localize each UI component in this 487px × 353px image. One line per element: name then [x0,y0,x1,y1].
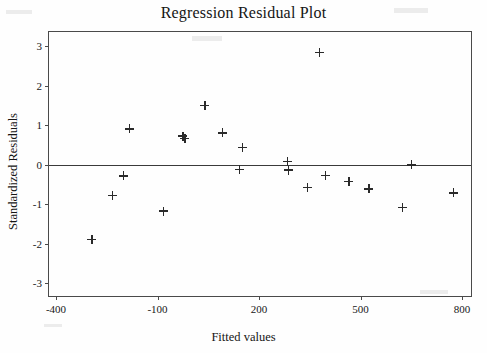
data-point-marker [119,171,128,180]
y-axis-tick-mark [45,244,49,245]
data-point-marker [364,184,373,193]
plot-frame: 3210-1-2-3-400-100200500800 [48,31,472,297]
x-axis-tick-mark [259,296,260,300]
x-axis-tick-mark [462,296,463,300]
zero-reference-line [49,165,471,166]
x-axis-label: Fitted values [0,330,487,345]
y-axis-label: Standardized Residuals [6,97,21,247]
x-axis-tick-label: 500 [352,304,369,315]
data-point-marker [178,132,187,141]
data-point-marker [238,143,247,152]
x-axis-tick-label: -400 [46,304,66,315]
page-title: Regression Residual Plot [0,4,487,22]
y-axis-tick-label: 0 [37,159,43,170]
data-point-marker [200,101,209,110]
y-axis-tick-label: -3 [33,278,42,289]
y-axis-tick-mark [45,204,49,205]
x-axis-tick-mark [56,296,57,300]
data-point-marker [398,203,407,212]
data-point-marker [125,124,134,133]
x-axis-tick-mark [361,296,362,300]
data-point-marker [235,165,244,174]
y-axis-tick-label: -1 [33,199,42,210]
data-point-marker [87,235,96,244]
x-axis-tick-label: 200 [251,304,268,315]
y-axis-tick-mark [45,165,49,166]
regression-residual-plot-figure: Regression Residual Plot 3210-1-2-3-400-… [0,0,487,353]
y-axis-tick-mark [45,46,49,47]
x-axis-tick-mark [158,296,159,300]
data-point-marker [344,177,353,186]
x-axis-tick-label: -100 [147,304,167,315]
y-axis-tick-label: -2 [33,238,42,249]
data-point-marker [284,166,293,175]
data-point-marker [321,171,330,180]
y-axis-tick-label: 1 [37,120,43,131]
data-point-marker [218,128,227,137]
data-point-marker [315,48,324,57]
data-point-marker [108,191,117,200]
data-point-marker [449,188,458,197]
y-axis-tick-mark [45,86,49,87]
data-point-marker [303,183,312,192]
x-axis-tick-label: 800 [454,304,471,315]
plot-area [49,32,471,296]
data-point-marker [180,134,189,143]
y-axis-tick-label: 3 [37,41,43,52]
y-axis-tick-mark [45,283,49,284]
data-point-marker [159,207,168,216]
y-axis-tick-mark [45,125,49,126]
y-axis-tick-label: 2 [37,80,43,91]
